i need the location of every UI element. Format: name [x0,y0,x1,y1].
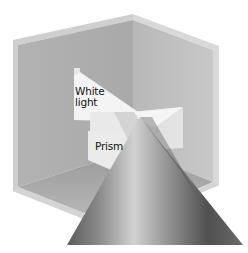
white-light-label: White light [75,86,105,108]
prism-diagram-svg [0,0,248,253]
prism-label: Prism [95,141,123,152]
white-light-label-line2: light [75,97,105,108]
diagram: White light Prism [0,0,248,253]
